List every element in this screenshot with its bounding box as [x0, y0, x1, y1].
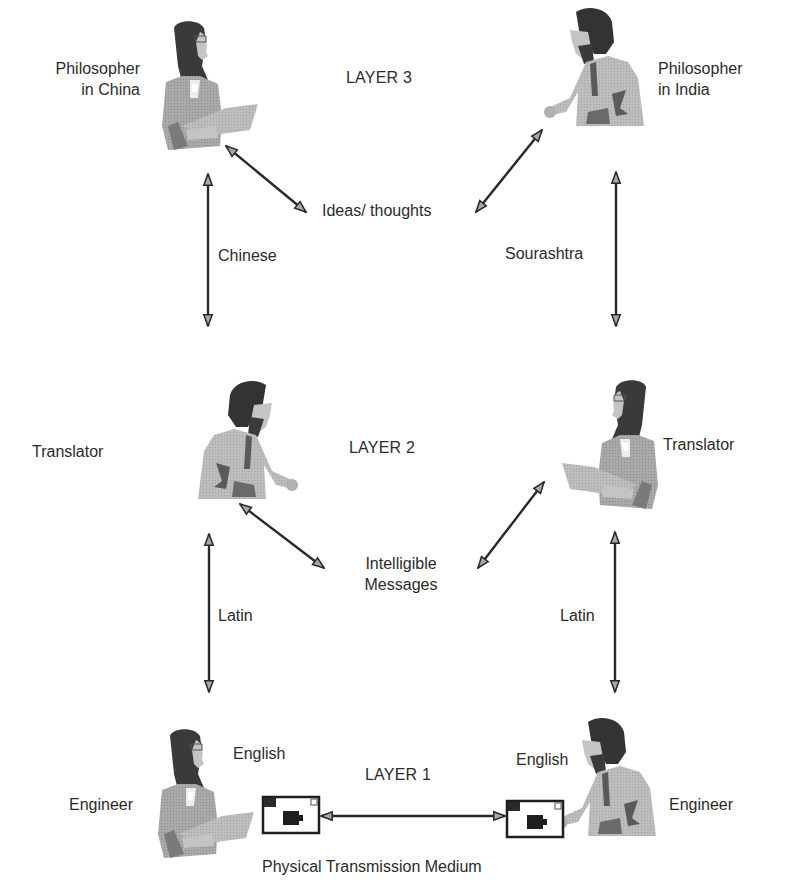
- translator-left-figure: [198, 381, 298, 499]
- interface-label-sourashtra: Sourashtra: [505, 243, 583, 264]
- philosopher-india-label-line1: Philosopher: [658, 58, 743, 79]
- interface-label-latin-left: Latin: [218, 605, 253, 626]
- english-left-label: English: [233, 743, 285, 764]
- peer-arrow-l3-right: [476, 130, 542, 212]
- philosopher-china-figure: [162, 21, 258, 150]
- intelligible-messages-line1: Intelligible: [346, 553, 456, 574]
- peer-arrow-l2-right: [478, 482, 544, 568]
- modem-right-icon: [507, 801, 563, 837]
- interface-label-chinese: Chinese: [218, 245, 277, 266]
- engineer-right-label: Engineer: [669, 794, 733, 815]
- engineer-left-label: Engineer: [69, 794, 133, 815]
- modem-left-icon: [263, 797, 319, 833]
- layer1-title: LAYER 1: [365, 764, 431, 785]
- philosopher-china-label: Philosopher in China: [30, 58, 140, 100]
- ideas-thoughts-label: Ideas/ thoughts: [322, 200, 431, 221]
- philosopher-india-figure: [544, 8, 644, 126]
- peer-arrow-l3-left: [226, 146, 306, 212]
- philosopher-india-label-line2: in India: [658, 79, 743, 100]
- philosopher-china-label-line1: Philosopher: [30, 58, 140, 79]
- physical-medium-label: Physical Transmission Medium: [262, 856, 482, 877]
- philosopher-india-label: Philosopher in India: [658, 58, 743, 100]
- english-right-label: English: [516, 749, 568, 770]
- interface-label-latin-right: Latin: [560, 605, 595, 626]
- layer3-title: LAYER 3: [346, 67, 412, 88]
- engineer-right-figure: [556, 718, 656, 836]
- peer-arrow-l2-left: [240, 504, 324, 568]
- translator-right-label: Translator: [663, 434, 734, 455]
- layer2-title: LAYER 2: [349, 437, 415, 458]
- philosopher-china-label-line2: in China: [30, 79, 140, 100]
- intelligible-messages-label: Intelligible Messages: [346, 553, 456, 595]
- translator-right-figure: [562, 380, 658, 509]
- translator-left-label: Translator: [32, 441, 103, 462]
- intelligible-messages-line2: Messages: [346, 574, 456, 595]
